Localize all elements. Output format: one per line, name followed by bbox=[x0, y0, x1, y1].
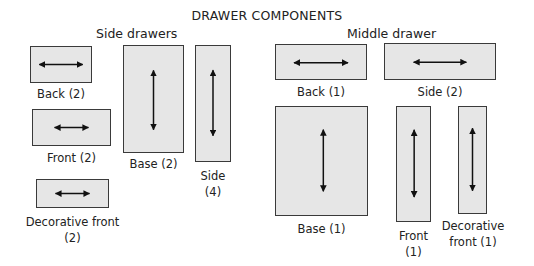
side-decorative-front-panel bbox=[36, 179, 109, 208]
vertical-grain-arrow-icon bbox=[459, 107, 486, 213]
diagram-title: DRAWER COMPONENTS bbox=[0, 8, 534, 23]
vertical-grain-arrow-icon bbox=[397, 107, 430, 221]
caption-line: front (1) bbox=[438, 234, 508, 250]
side-side-caption: Side (4) bbox=[188, 168, 238, 200]
middle-drawer-label: Middle drawer bbox=[347, 26, 436, 41]
caption-line: Front bbox=[386, 228, 441, 244]
caption-line: (2) bbox=[14, 230, 131, 246]
middle-back-panel bbox=[275, 44, 367, 80]
horizontal-grain-arrow-icon bbox=[37, 180, 108, 207]
middle-base-caption: Base (1) bbox=[275, 221, 368, 237]
horizontal-grain-arrow-icon bbox=[385, 44, 495, 79]
caption-line: Decorative bbox=[438, 218, 508, 234]
middle-front-caption: Front (1) bbox=[386, 228, 441, 260]
horizontal-grain-arrow-icon bbox=[31, 47, 91, 82]
caption-line: Side bbox=[188, 168, 238, 184]
side-front-panel bbox=[32, 109, 111, 146]
side-front-caption: Front (2) bbox=[32, 150, 111, 166]
side-base-caption: Base (2) bbox=[118, 156, 189, 172]
caption-line: Decorative front bbox=[14, 214, 131, 230]
vertical-grain-arrow-icon bbox=[196, 46, 230, 161]
middle-decorative-front-panel bbox=[458, 106, 487, 214]
middle-back-caption: Back (1) bbox=[275, 84, 367, 100]
middle-front-panel bbox=[396, 106, 431, 222]
middle-decorative-front-caption: Decorative front (1) bbox=[438, 218, 508, 250]
side-back-panel bbox=[30, 46, 92, 83]
middle-side-caption: Side (2) bbox=[384, 84, 496, 100]
middle-base-panel bbox=[275, 106, 368, 216]
middle-side-panel bbox=[384, 43, 496, 80]
side-side-panel bbox=[195, 45, 231, 162]
caption-line: (1) bbox=[386, 244, 441, 260]
side-drawers-label: Side drawers bbox=[96, 26, 177, 41]
side-decorative-front-caption: Decorative front (2) bbox=[14, 214, 131, 246]
side-base-panel bbox=[123, 45, 184, 153]
horizontal-grain-arrow-icon bbox=[33, 110, 110, 145]
horizontal-grain-arrow-icon bbox=[276, 45, 366, 79]
vertical-grain-arrow-icon bbox=[124, 46, 183, 152]
vertical-grain-arrow-icon bbox=[276, 107, 367, 215]
side-back-caption: Back (2) bbox=[30, 86, 92, 102]
caption-line: (4) bbox=[188, 184, 238, 200]
